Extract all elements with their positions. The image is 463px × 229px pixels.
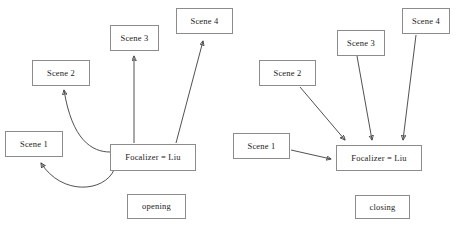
opening-scene-1-label: Scene 1 — [20, 140, 48, 149]
opening-focalizer-label: Focalizer = Liu — [125, 153, 180, 162]
closing-caption-box[interactable]: closing — [355, 195, 410, 219]
opening-scene-2-box[interactable]: Scene 2 — [32, 60, 90, 86]
closing-caption-label: closing — [370, 203, 396, 212]
arrow-scene3-to-focalizer — [357, 56, 372, 140]
closing-scene-2-box[interactable]: Scene 2 — [259, 60, 316, 86]
opening-scene-2-label: Scene 2 — [47, 69, 75, 78]
closing-scene-3-box[interactable]: Scene 3 — [337, 30, 385, 56]
closing-scene-4-label: Scene 4 — [412, 17, 440, 26]
arrow-scene2-to-focalizer — [300, 87, 345, 140]
opening-focalizer-box[interactable]: Focalizer = Liu — [110, 144, 196, 171]
closing-scene-2-label: Scene 2 — [273, 69, 301, 78]
closing-focalizer-box[interactable]: Focalizer = Liu — [336, 145, 422, 171]
arrow-focalizer-to-scene4 — [176, 41, 203, 143]
arrow-focalizer-to-scene1 — [41, 163, 114, 187]
arrow-scene1-to-focalizer — [291, 150, 331, 159]
opening-caption-box[interactable]: opening — [127, 194, 186, 219]
closing-scene-4-box[interactable]: Scene 4 — [402, 8, 450, 34]
closing-focalizer-label: Focalizer = Liu — [351, 154, 406, 163]
arrow-scene4-to-focalizer — [403, 35, 416, 140]
diagram-canvas: Scene 1 Scene 2 Scene 3 Scene 4 Focalize… — [0, 0, 463, 229]
opening-scene-1-box[interactable]: Scene 1 — [5, 131, 63, 157]
closing-scene-1-box[interactable]: Scene 1 — [233, 133, 290, 159]
opening-scene-4-box[interactable]: Scene 4 — [176, 8, 233, 34]
closing-scene-1-label: Scene 1 — [247, 142, 275, 151]
opening-scene-3-label: Scene 3 — [120, 34, 148, 43]
opening-caption-label: opening — [142, 202, 171, 211]
arrow-focalizer-to-scene2 — [64, 90, 110, 152]
opening-scene-4-label: Scene 4 — [190, 17, 218, 26]
opening-scene-3-box[interactable]: Scene 3 — [110, 25, 159, 51]
closing-scene-3-label: Scene 3 — [347, 39, 375, 48]
